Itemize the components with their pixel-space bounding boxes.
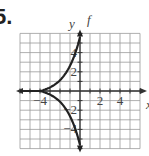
function-graph: −42442−2−4yfx	[0, 0, 149, 156]
y-axis-label: y	[67, 16, 75, 31]
y-tick-label: 2	[71, 64, 78, 79]
x-axis-label: x	[145, 97, 149, 112]
x-tick-label: 4	[117, 93, 124, 108]
function-label: f	[87, 12, 93, 27]
x-tick-label: −4	[33, 93, 47, 108]
x-tick-label: 2	[97, 93, 104, 108]
